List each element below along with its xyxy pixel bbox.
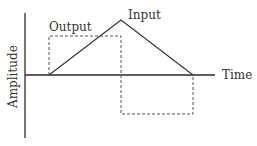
x-axis-label: Time: [222, 68, 252, 82]
output-label: Output: [49, 20, 92, 34]
input-label: Input: [128, 8, 161, 22]
waveform-diagram: Output Input Time Amplitude: [0, 0, 257, 146]
y-axis-label: Amplitude: [6, 45, 20, 109]
